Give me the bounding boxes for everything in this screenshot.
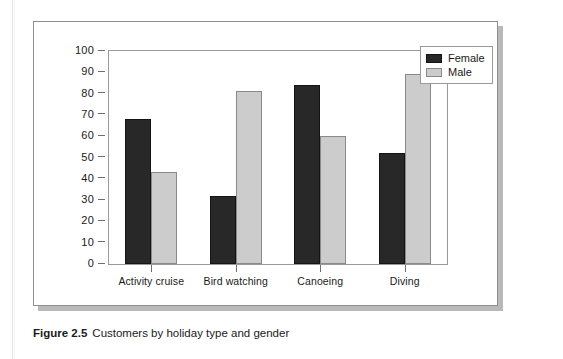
bar-bird-watching-female <box>210 196 236 264</box>
y-axis-tick: 90 <box>81 64 108 78</box>
page-edge-line-secondary <box>14 0 15 359</box>
y-axis-tick: 50 <box>81 150 108 164</box>
figure-caption-label: Figure 2.5 <box>33 327 87 339</box>
legend-item-male: Male <box>426 65 485 79</box>
y-axis-tick: 70 <box>81 107 108 121</box>
x-axis-tick-mark <box>320 265 321 272</box>
y-axis-tick-mark <box>98 113 105 114</box>
y-axis-tick-label: 30 <box>81 193 94 205</box>
y-axis-tick: 80 <box>81 86 108 100</box>
bar-diving-male <box>405 74 431 264</box>
y-axis-tick-label: 50 <box>81 151 94 163</box>
legend-swatch-female <box>426 54 442 63</box>
chart-legend: FemaleMale <box>420 46 493 84</box>
y-axis-tick: 20 <box>81 213 108 227</box>
bar-group <box>125 51 177 264</box>
page-edge-line <box>12 0 13 359</box>
x-axis-tick-label: Bird watching <box>204 275 268 287</box>
x-axis-tick-label: Activity cruise <box>118 275 184 287</box>
y-axis-tick-label: 100 <box>75 44 94 56</box>
y-axis-tick-label: 0 <box>88 257 94 269</box>
y-axis-tick-label: 80 <box>81 87 94 99</box>
y-axis-tick-mark <box>98 92 105 93</box>
figure-caption-text: Customers by holiday type and gender <box>92 327 289 339</box>
y-axis-tick-label: 20 <box>81 214 94 226</box>
y-axis-tick-label: 40 <box>81 172 94 184</box>
y-axis-tick-mark <box>98 241 105 242</box>
y-axis-tick: 40 <box>81 171 108 185</box>
x-axis-tick-label: Diving <box>390 275 420 287</box>
bars-layer <box>109 51 447 264</box>
legend-label-male: Male <box>448 66 472 78</box>
bar-canoeing-male <box>320 136 346 264</box>
y-axis-tick: 10 <box>81 235 108 249</box>
y-axis-tick-label: 10 <box>81 236 94 248</box>
x-axis: Activity cruiseBird watchingCanoeingDivi… <box>109 265 447 301</box>
x-axis-tick-mark <box>405 265 406 272</box>
x-axis-tick-label: Canoeing <box>297 275 343 287</box>
bar-canoeing-female <box>294 85 320 264</box>
y-axis-tick-label: 90 <box>81 65 94 77</box>
y-axis-tick-mark <box>98 220 105 221</box>
bar-activity-cruise-female <box>125 119 151 264</box>
y-axis-tick-mark <box>98 135 105 136</box>
y-axis: 1009080706050403020100 <box>34 50 108 265</box>
legend-label-female: Female <box>448 52 485 64</box>
legend-item-female: Female <box>426 51 485 65</box>
y-axis-tick: 30 <box>81 192 108 206</box>
y-axis-tick-mark <box>98 263 105 264</box>
x-axis-tick-mark <box>151 265 152 272</box>
y-axis-tick-mark <box>98 71 105 72</box>
bar-chart: 1009080706050403020100 Activity cruiseBi… <box>34 22 497 305</box>
y-axis-tick-mark <box>98 177 105 178</box>
bar-group <box>210 51 262 264</box>
bar-group <box>294 51 346 264</box>
bar-diving-female <box>379 153 405 264</box>
y-axis-tick: 100 <box>75 43 108 57</box>
figure-caption: Figure 2.5Customers by holiday type and … <box>33 327 289 339</box>
y-axis-tick: 0 <box>88 256 108 270</box>
y-axis-tick-mark <box>98 156 105 157</box>
legend-swatch-male <box>426 68 442 77</box>
y-axis-tick: 60 <box>81 128 108 142</box>
y-axis-tick-label: 60 <box>81 129 94 141</box>
bar-activity-cruise-male <box>151 172 177 264</box>
x-axis-tick-mark <box>236 265 237 272</box>
y-axis-tick-mark <box>98 50 105 51</box>
bar-bird-watching-male <box>236 91 262 264</box>
y-axis-tick-label: 70 <box>81 108 94 120</box>
y-axis-tick-mark <box>98 199 105 200</box>
figure-box: 1009080706050403020100 Activity cruiseBi… <box>33 21 498 306</box>
